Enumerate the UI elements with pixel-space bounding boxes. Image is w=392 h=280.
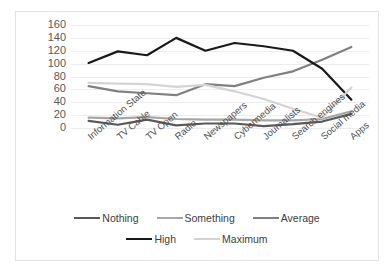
y-axis-tick-label: 140 [48, 32, 66, 43]
y-axis-tick-label: 80 [54, 71, 66, 82]
y-axis-tick-label: 160 [48, 19, 66, 30]
y-axis-tick-label: 20 [54, 109, 66, 120]
series-line [89, 111, 352, 120]
legend-swatch-icon [157, 217, 183, 219]
legend-item[interactable]: High [126, 234, 176, 245]
plot-wrapper: 160140120100806040200 Information StateT… [16, 12, 378, 260]
legend-swatch-icon [74, 217, 100, 219]
legend-row: NothingSomethingAverage [16, 208, 378, 228]
legend-label: Nothing [102, 213, 138, 224]
legend-item[interactable]: Nothing [74, 213, 138, 224]
legend-item[interactable]: Maximum [194, 234, 268, 245]
legend-swatch-icon [194, 238, 220, 240]
legend-label: Maximum [222, 234, 268, 245]
y-axis-tick-label: 60 [54, 83, 66, 94]
chart-legend: NothingSomethingAverageHighMaximum [16, 208, 378, 258]
legend-item[interactable]: Something [157, 213, 235, 224]
legend-swatch-icon [253, 217, 279, 219]
chart-container: 160140120100806040200 Information StateT… [15, 11, 379, 261]
series-line [89, 83, 352, 118]
y-axis-tick-label: 40 [54, 96, 66, 107]
series-line [89, 38, 352, 100]
legend-swatch-icon [126, 238, 152, 240]
y-axis-tick-label: 100 [48, 58, 66, 69]
y-axis-tick-label: 120 [48, 45, 66, 56]
legend-label: Average [281, 213, 320, 224]
y-axis-tick-label: 0 [60, 122, 66, 133]
legend-item[interactable]: Average [253, 213, 320, 224]
legend-label: High [154, 234, 176, 245]
legend-label: Something [185, 213, 235, 224]
legend-row: HighMaximum [16, 229, 378, 249]
